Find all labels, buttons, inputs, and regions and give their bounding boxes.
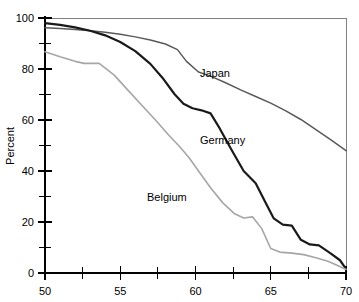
series-label-germany: Germany <box>200 134 246 146</box>
series-line-japan <box>45 28 346 151</box>
x-tick-label: 60 <box>189 285 201 297</box>
y-tick-label: 80 <box>22 63 34 75</box>
y-tick-label: 60 <box>22 114 34 126</box>
x-tick-label: 50 <box>39 285 51 297</box>
y-tick-label: 20 <box>22 216 34 228</box>
y-tick-label: 40 <box>22 165 34 177</box>
x-tick-label: 70 <box>340 285 352 297</box>
series-line-belgium <box>45 52 346 270</box>
y-axis-title: Percent <box>4 127 16 165</box>
x-tick-label: 55 <box>114 285 126 297</box>
plot-frame <box>45 18 346 273</box>
series-line-germany <box>45 23 346 269</box>
series-label-belgium: Belgium <box>147 191 187 203</box>
x-tick-label: 65 <box>265 285 277 297</box>
series-label-japan: Japan <box>200 67 230 79</box>
y-tick-label: 100 <box>16 12 34 24</box>
series-annotation-group: JapanGermanyBelgium <box>147 67 246 203</box>
x-tick-label-group: 5055606570 <box>39 285 352 297</box>
line-chart: 020406080100 Percent 5055606570 JapanGer… <box>0 0 359 302</box>
x-axis: 5055606570 <box>39 266 352 297</box>
y-tick-label-group: 020406080100 <box>16 12 34 279</box>
chart-container: 020406080100 Percent 5055606570 JapanGer… <box>0 0 359 302</box>
y-tick-label: 0 <box>28 267 34 279</box>
series-group <box>45 23 346 269</box>
